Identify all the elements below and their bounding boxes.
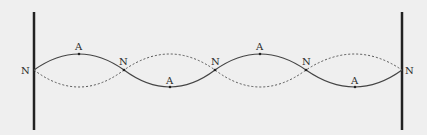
standing-wave-diagram [0,0,427,135]
node-label-5: N [405,66,414,76]
antinode-label-1: A [75,42,82,52]
antinode-label-3: A [256,42,263,52]
antinode-label-4: A [351,76,358,86]
node-label-4: N [302,57,311,67]
antinode-label-2: A [166,76,173,86]
node-label-2: N [119,57,128,67]
node-label-1: N [21,66,30,76]
node-dots [123,69,308,72]
node-label-3: N [211,57,220,67]
